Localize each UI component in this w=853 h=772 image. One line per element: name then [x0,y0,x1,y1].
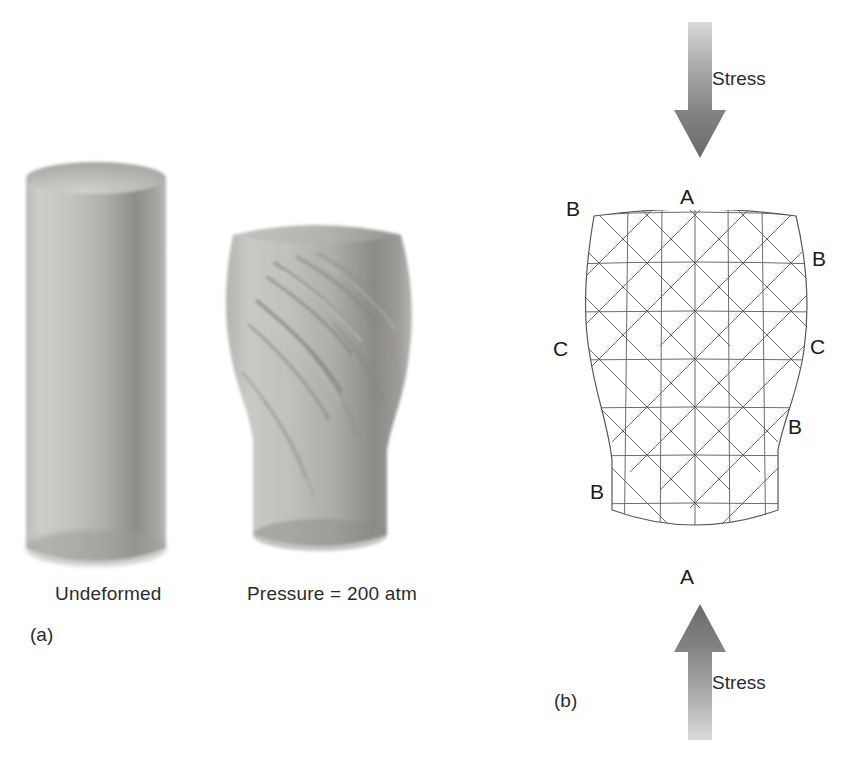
panel-b-id-label: (b) [554,690,577,712]
stress-arrow-top [670,22,730,162]
panel-a-photographs: Undeformed Pressure = 200 atm (a) [0,0,470,772]
panel-b-grid-diagram: Stress A B B C C B B A [470,0,853,772]
grid-label-c-right: C [810,336,825,357]
specimen-outline [586,210,807,525]
figure-root: Undeformed Pressure = 200 atm (a) Stress… [0,0,853,772]
grid-lines [580,210,810,565]
deformed-cylinder [205,205,435,580]
panel-a-id-label: (a) [30,624,53,646]
stress-label-top: Stress [712,68,766,90]
grid-label-a-top: A [680,186,694,207]
caption-undeformed: Undeformed [55,583,162,605]
caption-pressure: Pressure = 200 atm [247,583,417,605]
undeformed-cylinder [10,150,210,580]
deformed-grid-diagram [580,210,810,565]
stress-label-bottom: Stress [712,672,766,694]
grid-label-c-left: C [553,338,568,359]
grid-label-b-upper-right: B [812,248,826,269]
grid-label-b-top-left: B [566,198,580,219]
grid-label-a-bottom: A [680,566,694,587]
